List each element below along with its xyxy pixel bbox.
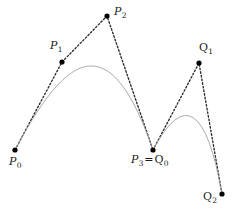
label-q0-base: Q	[154, 153, 163, 166]
label-p2: P2	[114, 6, 126, 17]
control-polygon-q	[153, 63, 222, 194]
label-p1-base: P	[50, 39, 57, 52]
label-q2-base: Q	[203, 190, 212, 203]
bezier-figure: P0 P1 P2 P3=Q0 Q1 Q2	[0, 0, 235, 213]
control-point-q2	[219, 191, 224, 196]
label-p3-sub: 3	[139, 159, 144, 168]
label-q2: Q2	[203, 191, 217, 202]
label-p2-sub: 2	[122, 11, 127, 20]
control-point-p0	[12, 147, 17, 152]
label-p0: P0	[9, 156, 21, 167]
figure-canvas	[0, 0, 235, 213]
control-polygon-p	[15, 16, 153, 150]
label-p1-sub: 1	[58, 45, 63, 54]
label-p2-base: P	[114, 5, 121, 18]
control-point-q1	[196, 60, 201, 65]
label-equals: =	[143, 153, 154, 166]
label-p3-q0: P3=Q0	[131, 154, 168, 165]
control-point-p2	[104, 13, 109, 18]
control-point-p1	[59, 59, 64, 64]
label-q0-sub: 0	[164, 159, 169, 168]
bezier-curve-segment-1	[15, 66, 153, 150]
label-p0-sub: 0	[17, 161, 22, 170]
label-p3-base: P	[131, 153, 138, 166]
label-p0-base: P	[9, 155, 16, 168]
control-point-p3-q0	[150, 147, 155, 152]
label-q1-sub: 1	[208, 47, 213, 56]
label-q1: Q1	[199, 42, 213, 53]
label-q2-sub: 2	[212, 196, 217, 205]
label-q1-base: Q	[199, 41, 208, 54]
label-p1: P1	[50, 40, 62, 51]
